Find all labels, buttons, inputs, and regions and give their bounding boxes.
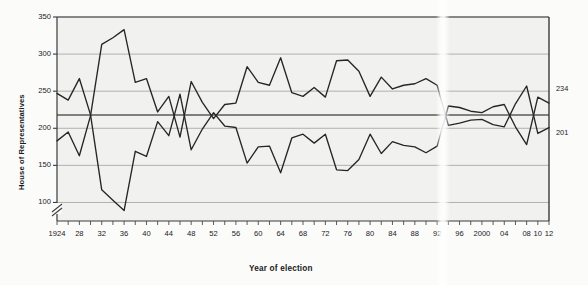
y-tick-label: 200 bbox=[27, 123, 51, 132]
plot-background bbox=[57, 17, 549, 221]
chart-canvas bbox=[0, 0, 588, 285]
x-tick-label: 12 bbox=[532, 229, 566, 238]
y-tick-label: 350 bbox=[27, 12, 51, 21]
y-tick-label: 150 bbox=[27, 160, 51, 169]
y-tick-label: 300 bbox=[27, 49, 51, 58]
y-tick-label: 100 bbox=[27, 197, 51, 206]
y-tick-label: 250 bbox=[27, 86, 51, 95]
chart-figure: House of Representatives Year of electio… bbox=[0, 0, 588, 285]
